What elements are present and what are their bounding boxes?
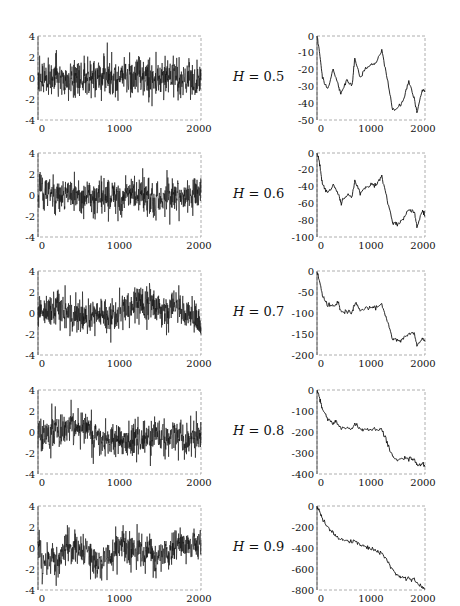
y-tick-label: -50 (298, 115, 314, 126)
y-tick-label: -2 (25, 211, 35, 222)
y-tick-label: -30 (298, 81, 314, 92)
x-tick-label: 2000 (410, 123, 435, 134)
y-tick-label: -100 (292, 406, 314, 417)
cumulative-plot-0.5: 0-10-20-30-40-50010002000 (298, 31, 436, 135)
y-tick-label: 2 (29, 287, 35, 298)
y-tick-label: -2 (25, 564, 35, 575)
cumulative-plot-0.7: 0-50-100-150-200010002000 (292, 266, 436, 370)
y-tick-label: 4 (29, 148, 35, 159)
x-tick-label: 0 (39, 358, 45, 369)
noise-plot-0.5: 420-2-4010002000 (25, 31, 211, 135)
noise-plot-0.7: 420-2-4010002000 (25, 266, 211, 370)
y-tick-label: 0 (308, 501, 314, 512)
x-tick-label: 2000 (186, 593, 211, 604)
cumulative-series (317, 272, 425, 346)
x-tick-label: 1000 (107, 123, 132, 134)
noise-series (38, 43, 201, 107)
x-tick-label: 2000 (410, 477, 435, 488)
y-tick-label: -800 (292, 585, 314, 596)
y-tick-label: -10 (298, 47, 314, 58)
y-tick-label: 0 (308, 31, 314, 42)
y-tick-label: -2 (25, 329, 35, 340)
y-tick-label: -40 (298, 98, 314, 109)
x-tick-label: 0 (318, 123, 324, 134)
y-tick-label: 2 (29, 406, 35, 417)
x-tick-label: 0 (318, 593, 324, 604)
y-tick-label: -2 (25, 94, 35, 105)
x-tick-label: 2000 (410, 358, 435, 369)
noise-series (38, 283, 201, 343)
y-tick-label: -40 (298, 181, 314, 192)
x-tick-label: 1000 (358, 123, 383, 134)
y-tick-label: 2 (29, 52, 35, 63)
y-tick-label: 2 (29, 169, 35, 180)
y-tick-label: -300 (292, 448, 314, 459)
figure-canvas: 420-2-40100020000-10-20-30-40-5001000200… (0, 0, 460, 606)
x-tick-label: 0 (39, 477, 45, 488)
y-tick-label: -20 (298, 164, 314, 175)
x-tick-label: 0 (39, 123, 45, 134)
y-tick-label: -600 (292, 564, 314, 575)
x-tick-label: 1000 (107, 358, 132, 369)
cumulative-series (317, 36, 425, 113)
x-tick-label: 0 (39, 593, 45, 604)
y-tick-label: -4 (25, 232, 35, 243)
cumulative-series (317, 153, 425, 228)
y-tick-label: -200 (292, 350, 314, 361)
x-tick-label: 2000 (186, 123, 211, 134)
cumulative-series (317, 390, 425, 467)
x-tick-label: 1000 (107, 593, 132, 604)
y-tick-label: -200 (292, 427, 314, 438)
y-tick-label: -60 (298, 198, 314, 209)
x-tick-label: 1000 (358, 593, 383, 604)
y-tick-label: -400 (292, 543, 314, 554)
y-tick-label: 0 (308, 266, 314, 277)
x-tick-label: 1000 (107, 240, 132, 251)
y-tick-label: 0 (308, 385, 314, 396)
y-tick-label: -100 (292, 308, 314, 319)
cumulative-plot-0.6: 0-20-40-60-80-100010002000 (292, 148, 436, 252)
y-tick-label: -150 (292, 329, 314, 340)
x-tick-label: 2000 (186, 477, 211, 488)
cumulative-plot-0.9: 0-200-400-600-800010002000 (292, 501, 436, 605)
noise-plot-0.9: 420-2-4010002000 (25, 501, 211, 605)
cumulative-plot-0.8: 0-100-200-300-400010002000 (292, 385, 436, 489)
noise-series (38, 524, 201, 586)
x-tick-label: 1000 (358, 477, 383, 488)
cumulative-series (317, 506, 425, 589)
y-tick-label: -4 (25, 115, 35, 126)
y-tick-label: -200 (292, 522, 314, 533)
x-tick-label: 1000 (107, 477, 132, 488)
y-tick-label: 0 (29, 190, 35, 201)
x-tick-label: 2000 (410, 593, 435, 604)
noise-plot-0.8: 420-2-4010002000 (25, 385, 211, 489)
y-tick-label: 2 (29, 522, 35, 533)
y-tick-label: -100 (292, 232, 314, 243)
y-tick-label: -4 (25, 350, 35, 361)
noise-plot-0.6: 420-2-4010002000 (25, 148, 211, 252)
y-tick-label: 4 (29, 501, 35, 512)
y-tick-label: -50 (298, 287, 314, 298)
noise-series (38, 400, 201, 466)
y-tick-label: -400 (292, 469, 314, 480)
y-tick-label: 0 (29, 543, 35, 554)
noise-series (38, 168, 201, 224)
x-tick-label: 2000 (186, 240, 211, 251)
y-tick-label: 0 (29, 427, 35, 438)
y-tick-label: 4 (29, 266, 35, 277)
y-tick-label: -4 (25, 585, 35, 596)
x-tick-label: 1000 (358, 240, 383, 251)
y-tick-label: -80 (298, 215, 314, 226)
y-tick-label: 4 (29, 31, 35, 42)
y-tick-label: -2 (25, 448, 35, 459)
x-tick-label: 0 (318, 477, 324, 488)
y-tick-label: 0 (29, 308, 35, 319)
x-tick-label: 1000 (358, 358, 383, 369)
y-tick-label: 0 (308, 148, 314, 159)
y-tick-label: -20 (298, 64, 314, 75)
x-tick-label: 0 (318, 358, 324, 369)
y-tick-label: -4 (25, 469, 35, 480)
x-tick-label: 0 (39, 240, 45, 251)
x-tick-label: 2000 (186, 358, 211, 369)
y-tick-label: 0 (29, 73, 35, 84)
